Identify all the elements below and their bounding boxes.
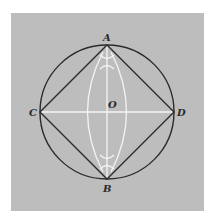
- label-c: C: [29, 107, 37, 118]
- label-a: A: [102, 32, 111, 43]
- label-o: O: [108, 99, 117, 110]
- label-b: B: [102, 183, 111, 194]
- geometry-figure: A B C D O: [0, 0, 217, 220]
- label-d: D: [176, 107, 186, 118]
